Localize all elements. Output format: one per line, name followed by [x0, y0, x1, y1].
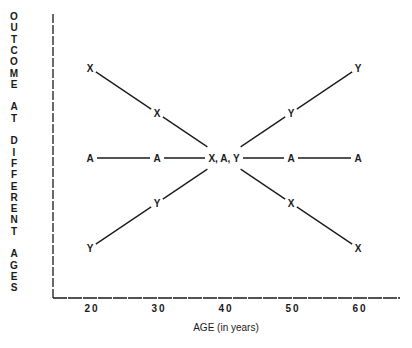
y-axis-label-letter: T — [11, 113, 17, 124]
data-point-marker-a: A — [354, 153, 361, 164]
x-tick-label: 30 — [151, 303, 166, 314]
x-tick-label: 50 — [285, 303, 300, 314]
series-segment — [96, 207, 151, 244]
series-group: XXXXAAAAYYYYX, A, Y — [86, 63, 361, 254]
series-segment — [297, 72, 352, 109]
series-segment — [241, 117, 286, 147]
y-axis-label-letter: D — [10, 135, 17, 146]
y-axis-label-letter: F — [11, 169, 17, 180]
y-axis-label-letter: S — [11, 282, 18, 293]
x-tick-label: 60 — [352, 303, 367, 314]
y-axis-label-letter: C — [10, 45, 17, 56]
data-point-marker-y: Y — [87, 243, 94, 254]
y-axis-label-letter: E — [11, 79, 18, 90]
data-point-marker-a: A — [86, 153, 93, 164]
y-axis-label-letter: E — [11, 203, 18, 214]
data-point-marker-y: Y — [154, 198, 161, 209]
y-axis-label-letter: A — [10, 101, 17, 112]
series-segment — [297, 207, 352, 244]
data-point-marker-y: Y — [288, 108, 295, 119]
y-axis-label-letter: G — [10, 260, 18, 271]
chart: OUTCOMEATDIFFERENTAGES 2030405060 AGE (i… — [0, 0, 412, 348]
series-segment — [163, 117, 208, 147]
x-tick-label: 40 — [218, 303, 233, 314]
y-axis-label-letter: M — [10, 68, 18, 79]
data-point-marker-y: Y — [355, 63, 362, 74]
y-axis-label-letter: N — [10, 214, 17, 225]
data-point-marker-x: X — [87, 63, 94, 74]
x-tick-label: 20 — [84, 303, 99, 314]
data-point-marker-a: A — [153, 153, 160, 164]
y-axis-label-letter: O — [10, 56, 18, 67]
data-point-marker-a: A — [287, 153, 294, 164]
data-point-marker-x: X — [154, 108, 161, 119]
y-axis-label-letter: F — [11, 158, 17, 169]
y-axis-label-letter: I — [13, 147, 16, 158]
intersection-annotation: X, A, Y — [208, 153, 239, 164]
y-axis-label-letter: T — [11, 34, 17, 45]
data-point-marker-x: X — [355, 243, 362, 254]
series-segment — [96, 72, 151, 109]
x-axis-label: AGE (in years) — [193, 322, 259, 333]
y-axis-label: OUTCOMEATDIFFERENTAGES — [10, 11, 19, 293]
y-axis-label-letter: O — [10, 11, 18, 22]
y-axis-label-letter: R — [10, 192, 18, 203]
series-segment — [163, 169, 208, 199]
series-segment — [241, 169, 286, 199]
x-axis-ticks: 2030405060 — [84, 303, 367, 314]
y-axis-label-letter: U — [10, 22, 17, 33]
y-axis-label-letter: T — [11, 226, 17, 237]
data-point-marker-x: X — [288, 198, 295, 209]
y-axis-label-letter: E — [11, 271, 18, 282]
y-axis-label-letter: E — [11, 181, 18, 192]
y-axis-label-letter: A — [10, 248, 17, 259]
